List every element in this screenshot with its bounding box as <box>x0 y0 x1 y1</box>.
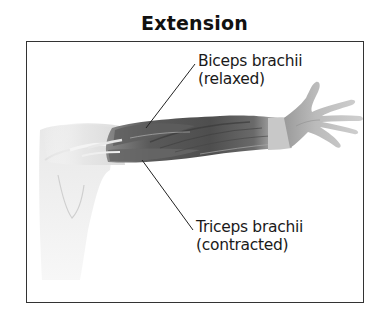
biceps-state: (relaxed) <box>198 70 302 88</box>
triceps-label: Triceps brachii (contracted) <box>196 218 303 254</box>
forearm-muscles <box>82 116 280 163</box>
triceps-name: Triceps brachii <box>196 218 303 236</box>
biceps-label: Biceps brachii (relaxed) <box>198 52 302 88</box>
biceps-name: Biceps brachii <box>198 52 302 70</box>
triceps-leader-line <box>142 160 193 230</box>
hand-shape <box>284 82 363 148</box>
arm-extension-illustration <box>0 0 389 333</box>
triceps-state: (contracted) <box>196 236 303 254</box>
